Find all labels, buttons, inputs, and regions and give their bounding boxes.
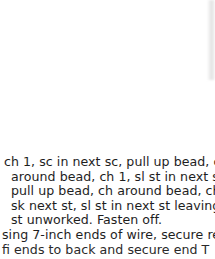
instruction-line-clipped: ﬁ ends to back and secure end T (0, 243, 215, 258)
instruction-line: sk next st, sl st in next st leaving las… (0, 199, 215, 214)
instruction-line: sing 7-inch ends of wire, secure rem (0, 228, 215, 243)
pattern-instructions: ch 1, sc in next sc, pull up bead, ch ar… (0, 155, 215, 257)
instruction-line: st unworked. Fasten off. (0, 213, 215, 228)
instruction-line: pull up bead, ch around bead, ch 1, (0, 184, 215, 199)
page-edge-shadow (207, 0, 215, 80)
scanned-page: ch 1, sc in next sc, pull up bead, ch ar… (0, 0, 215, 259)
instruction-line: ch 1, sc in next sc, pull up bead, ch (0, 155, 215, 170)
instruction-line: around bead, ch 1, sl st in next st, (0, 170, 215, 185)
